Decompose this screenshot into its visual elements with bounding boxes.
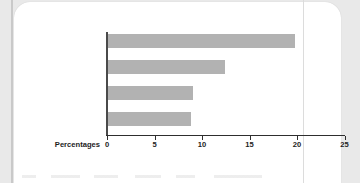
bar-fill [107,86,193,100]
cropped-text-line [22,175,262,178]
y-axis-line [106,32,108,136]
x-axis-tick-label: 20 [285,140,309,149]
bar-track [107,112,191,126]
x-axis-tick-label: 25 [333,140,357,149]
x-axis-tick-label: 10 [190,140,214,149]
bar-fill [107,112,191,126]
bar-track [107,86,193,100]
horizontal-bar-chart: Pakistani/Bangladeshi Indian White Afro-… [0,0,360,183]
bar-fill [107,60,225,74]
screenshot-canvas: Pakistani/Bangladeshi Indian White Afro-… [0,0,360,183]
bar-fill [107,34,295,48]
x-axis-title: Percentages [55,140,100,149]
bar-track [107,34,295,48]
x-axis-line [106,135,345,136]
x-axis-tick-label: 15 [238,140,262,149]
bar-track [107,60,225,74]
x-axis-tick-label: 5 [143,140,167,149]
